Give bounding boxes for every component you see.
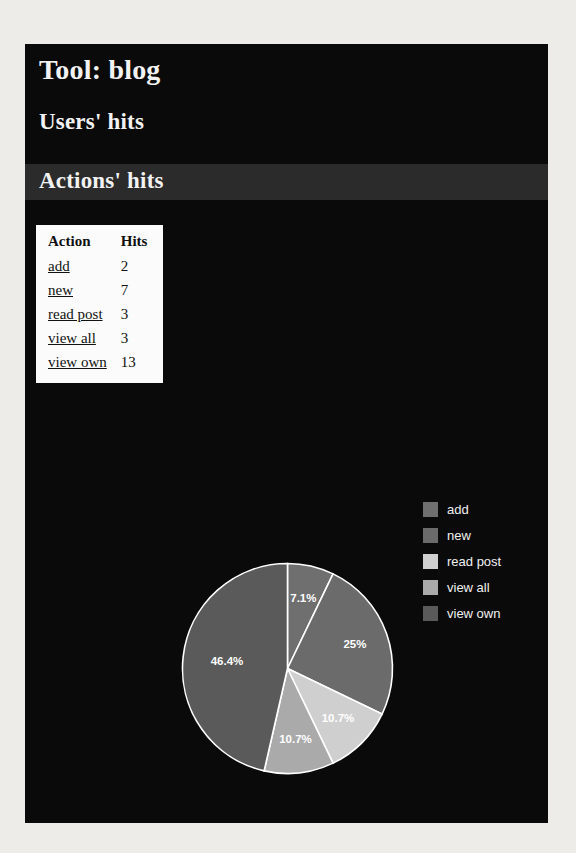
page-title: Tool: blog <box>39 54 161 86</box>
page-root: Tool: blog Users' hits Actions' hits Act… <box>0 0 576 853</box>
actions-hits-heading: Actions' hits <box>39 168 164 194</box>
action-cell: view all <box>46 327 113 351</box>
table-row: view all3 <box>46 327 153 351</box>
legend-label: read post <box>447 554 501 569</box>
table-row: new7 <box>46 279 153 303</box>
action-link[interactable]: view own <box>48 354 107 370</box>
action-link[interactable]: new <box>48 282 73 298</box>
pie-slice-label: 7.1% <box>290 592 316 604</box>
table-body: add2new7read post3view all3view own13 <box>46 255 153 375</box>
pie-slice-label: 25% <box>343 638 366 650</box>
table-row: add2 <box>46 255 153 279</box>
hits-cell: 3 <box>113 327 154 351</box>
users-hits-heading: Users' hits <box>39 109 144 135</box>
hits-cell: 7 <box>113 279 154 303</box>
action-cell: view own <box>46 351 113 375</box>
legend-item: new <box>423 522 501 548</box>
action-link[interactable]: add <box>48 258 70 274</box>
column-header-action: Action <box>46 231 113 255</box>
table-header: Action Hits <box>46 231 153 255</box>
legend-swatch-icon <box>423 528 438 543</box>
legend-label: view all <box>447 580 490 595</box>
legend-swatch-icon <box>423 502 438 517</box>
actions-hits-pie-chart: 7.1%25%10.7%10.7%46.4% <box>180 561 395 776</box>
actions-hits-section-band: Actions' hits <box>25 164 548 200</box>
actions-hits-table-container: Action Hits add2new7read post3view all3v… <box>36 225 163 383</box>
action-cell: new <box>46 279 113 303</box>
pie-slice-label: 46.4% <box>211 655 244 667</box>
table-row: read post3 <box>46 303 153 327</box>
legend-item: view all <box>423 574 501 600</box>
table-header-row: Action Hits <box>46 231 153 255</box>
legend-label: add <box>447 502 469 517</box>
legend-swatch-icon <box>423 554 438 569</box>
actions-hits-table: Action Hits add2new7read post3view all3v… <box>46 231 153 375</box>
legend-item: read post <box>423 548 501 574</box>
hits-cell: 3 <box>113 303 154 327</box>
legend-item: add <box>423 496 501 522</box>
content-panel: Tool: blog Users' hits Actions' hits Act… <box>25 44 548 823</box>
pie-legend: addnewread postview allview own <box>423 496 501 626</box>
legend-swatch-icon <box>423 580 438 595</box>
legend-label: new <box>447 528 471 543</box>
pie-chart-svg: 7.1%25%10.7%10.7%46.4% <box>180 561 395 776</box>
action-link[interactable]: read post <box>48 306 103 322</box>
pie-slice-label: 10.7% <box>279 733 312 745</box>
pie-slice-label: 10.7% <box>322 712 355 724</box>
action-cell: read post <box>46 303 113 327</box>
action-link[interactable]: view all <box>48 330 96 346</box>
pie-slice <box>182 564 287 771</box>
legend-swatch-icon <box>423 606 438 621</box>
legend-label: view own <box>447 606 500 621</box>
legend-item: view own <box>423 600 501 626</box>
action-cell: add <box>46 255 113 279</box>
hits-cell: 13 <box>113 351 154 375</box>
hits-cell: 2 <box>113 255 154 279</box>
table-row: view own13 <box>46 351 153 375</box>
column-header-hits: Hits <box>113 231 154 255</box>
